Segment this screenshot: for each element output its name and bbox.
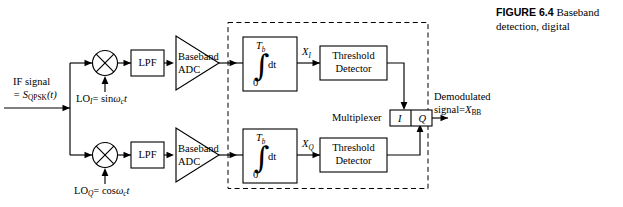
if-signal-line1: IF signal xyxy=(13,76,57,89)
if-signal-label: IF signal = SQPSK(t) xyxy=(13,76,57,102)
if-input-arrowhead xyxy=(63,105,71,111)
lo-q-time: t xyxy=(127,185,130,196)
lpf-i-to-adc-arrowhead xyxy=(167,60,175,66)
lo-i-eq: = sin xyxy=(92,93,113,104)
adc-i-label-line2: ADC xyxy=(178,64,200,75)
mux-cell-i-label: I xyxy=(397,113,402,124)
adc-q-label-line1: Baseband xyxy=(178,143,220,154)
adc-i-to-integrator-arrowhead xyxy=(230,60,238,66)
signal-xq-label: XQ xyxy=(301,138,314,152)
integrator-q-lower-limit: 0 xyxy=(253,169,258,180)
if-signal-eq: = S xyxy=(13,89,28,100)
threshold-i-to-mux-wire xyxy=(387,63,404,104)
lo-q-name: LO xyxy=(74,185,88,196)
if-signal-sub: QPSK xyxy=(28,93,47,102)
lpf-q-to-adc-arrowhead xyxy=(167,152,175,158)
mixer-i-to-lpf-arrowhead xyxy=(124,60,132,66)
demodulated-output-label: Demodulated signal=XBB xyxy=(434,91,491,117)
lpf-q-label: LPF xyxy=(138,149,156,160)
lo-i-feed-arrowhead xyxy=(102,76,109,84)
demodulated-sub: BB xyxy=(471,108,481,117)
lo-q-omega-sub: c xyxy=(123,189,126,198)
lo-q-label: LOQ= cosωct xyxy=(74,185,130,196)
lo-i-time: t xyxy=(124,93,127,104)
if-signal-line2: = SQPSK(t) xyxy=(13,89,57,103)
xq-arrowhead xyxy=(313,152,321,158)
threshold-i-label-line2: Detector xyxy=(335,63,372,74)
mux-cell-q-label: Q xyxy=(419,113,427,124)
figure-number: FIGURE 6.4 xyxy=(496,6,554,18)
demodulated-signal-word: signal xyxy=(434,104,459,115)
q-branch-arrowhead xyxy=(85,152,93,158)
integrator-i-lower-limit: 0 xyxy=(253,77,258,88)
integrator-i-dt: dt xyxy=(268,59,276,70)
multiplexer-label: Multiplexer xyxy=(332,112,382,123)
if-signal-arg: (t) xyxy=(47,89,57,100)
threshold-q-label-line1: Threshold xyxy=(332,142,375,153)
adc-i-label-line1: Baseband xyxy=(178,51,220,62)
demodulated-line2: signal=XBB xyxy=(434,104,491,118)
figure-caption: FIGURE 6.4 Baseband detection, digital xyxy=(496,6,621,33)
signal-xi-label: XI xyxy=(301,46,311,60)
xi-arrowhead xyxy=(313,60,321,66)
lo-i-label: LOI= sinωct xyxy=(76,93,127,104)
demodulated-line1: Demodulated xyxy=(434,91,491,104)
lo-q-feed-arrowhead xyxy=(102,168,109,176)
lpf-i-label: LPF xyxy=(138,57,156,68)
adc-q-label-line2: ADC xyxy=(178,156,200,167)
lo-i-name: LO xyxy=(76,93,90,104)
lo-q-eq: = cos xyxy=(93,185,116,196)
integrator-q-dt: dt xyxy=(268,151,276,162)
lo-i-omega-sub: c xyxy=(121,97,124,106)
adc-q-to-integrator-arrowhead xyxy=(230,152,238,158)
threshold-q-label-line2: Detector xyxy=(335,155,372,166)
threshold-i-label-line1: Threshold xyxy=(332,50,375,61)
mixer-q-to-lpf-arrowhead xyxy=(124,152,132,158)
threshold-q-to-mux-wire xyxy=(387,130,420,155)
figure-canvas: LPF LPF Baseband ADC Baseband ADC Tb ∫ d… xyxy=(0,0,623,207)
lo-q-sub: Q xyxy=(88,189,93,198)
i-branch-arrowhead xyxy=(85,60,93,66)
lo-i-omega: ω xyxy=(113,93,120,104)
threshold-i-to-mux-arrowhead xyxy=(401,102,408,110)
